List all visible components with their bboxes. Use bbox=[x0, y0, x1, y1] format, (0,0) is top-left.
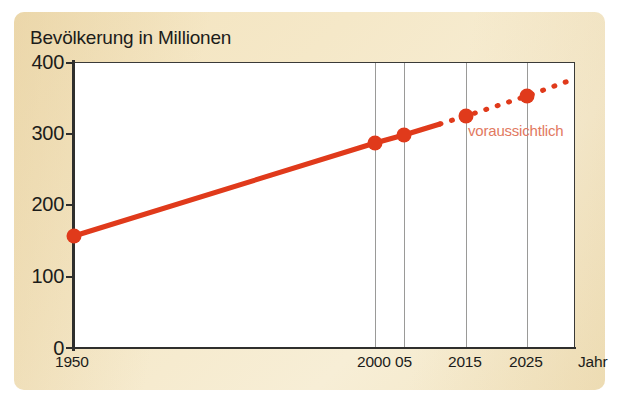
chart-screenshot: Bevölkerung in Millionen 400 300 200 100… bbox=[0, 0, 619, 405]
data-point-2000 bbox=[368, 136, 383, 151]
projection-annotation-label: voraussichtlich bbox=[468, 122, 563, 139]
series-line-solid bbox=[74, 124, 440, 236]
data-point-2005 bbox=[397, 128, 412, 143]
data-series-overlay bbox=[0, 0, 619, 405]
data-point-1950 bbox=[67, 229, 82, 244]
data-point-2025 bbox=[520, 89, 535, 104]
